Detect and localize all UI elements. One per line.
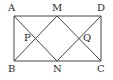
label-b: B	[8, 63, 15, 74]
label-n: N	[53, 63, 62, 74]
label-d: D	[97, 2, 105, 13]
label-p: P	[24, 32, 31, 43]
label-c: C	[97, 63, 105, 74]
label-q: Q	[83, 32, 91, 43]
label-a: A	[7, 2, 16, 13]
geometry-diagram: A M D B N C P Q	[0, 0, 113, 80]
label-m: M	[52, 2, 62, 13]
point-labels: A M D B N C P Q	[7, 2, 105, 74]
